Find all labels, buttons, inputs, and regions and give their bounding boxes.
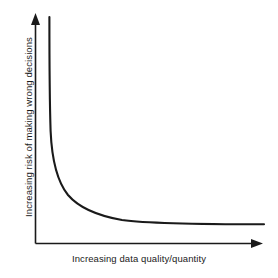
x-axis-label: Increasing data quality/quantity — [0, 254, 278, 264]
risk-decay-curve — [49, 17, 264, 224]
x-axis — [36, 239, 264, 248]
x-axis-arrowhead — [251, 239, 263, 248]
chart-canvas — [0, 0, 278, 278]
y-axis-label: Increasing risk of making wrong decision… — [24, 12, 34, 242]
chart-figure: Increasing risk of making wrong decision… — [0, 0, 278, 278]
